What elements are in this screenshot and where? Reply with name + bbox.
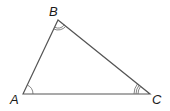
vertex-label-b: B [49, 4, 58, 19]
triangle-abc [23, 20, 150, 94]
vertex-label-c: C [152, 92, 162, 107]
triangle-diagram: B A C [0, 0, 170, 111]
angle-a-mark [27, 85, 33, 94]
vertex-label-a: A [9, 92, 19, 107]
